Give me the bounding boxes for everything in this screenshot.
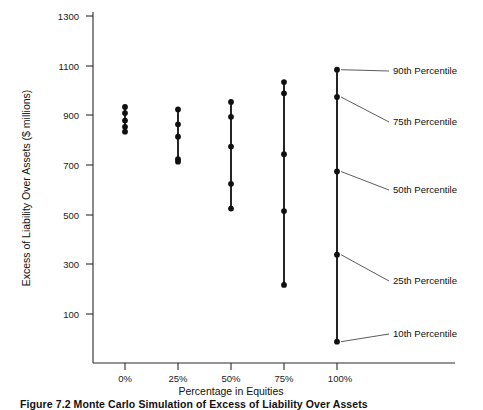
annotation-p25: 25th Percentile [393,275,457,286]
data-point-p75 [175,121,181,127]
data-point-p90 [228,99,234,105]
y-tick-label: 1300 [58,11,79,22]
y-axis-title: Excess of Liability Over Assets ($ milli… [20,90,32,287]
x-tick-label: 100% [328,373,353,384]
data-point-p50 [281,151,287,157]
annotation-p10: 10th Percentile [393,328,457,339]
y-tick-label: 100 [63,309,79,320]
annotation-p90: 90th Percentile [393,65,457,76]
data-point-p90 [334,67,340,73]
annotation-p75: 75th Percentile [393,116,457,127]
y-tick-label: 300 [63,259,79,270]
data-point-p25 [228,181,234,187]
data-point-p10 [122,129,128,135]
data-column-50pct [228,99,234,212]
data-point-p75 [228,114,234,120]
data-point-p25 [281,208,287,214]
leader-line-p75 [341,97,389,122]
y-tick-label: 700 [63,160,79,171]
data-point-p90 [175,107,181,113]
leader-line-p90 [341,70,389,71]
leader-line-p25 [341,255,389,281]
y-tick-label: 900 [63,110,79,121]
data-column-75pct [281,79,287,288]
annotation-leader-lines [341,70,389,342]
data-point-p50 [334,169,340,175]
x-tick-label: 25% [168,373,188,384]
x-tick-label: 75% [274,373,294,384]
x-axis-ticks [125,363,337,370]
data-point-p90 [281,79,287,85]
leader-line-p10 [341,334,389,342]
x-axis-title: Percentage in Equities [178,385,283,397]
data-point-p50 [175,134,181,140]
data-point-p10 [175,159,181,165]
data-point-p75 [281,90,287,96]
data-point-p90 [122,104,128,110]
data-point-p10 [228,206,234,212]
x-axis-tick-labels: 0% 25% 50% 75% 100% [118,373,353,384]
y-tick-label: 1100 [59,61,79,72]
y-axis-tick-labels: 1300 1100 900 700 500 300 100 [58,11,79,320]
data-point-p50 [228,144,234,150]
figure-caption: Figure 7.2 Monte Carlo Simulation of Exc… [20,398,368,410]
data-column-25pct [175,107,181,165]
x-tick-label: 50% [221,373,241,384]
data-point-p75 [334,94,340,100]
y-tick-label: 500 [63,210,79,221]
x-tick-label: 0% [118,373,132,384]
annotation-labels: 90th Percentile 75th Percentile 50th Per… [393,65,457,339]
data-column-0pct [122,104,128,135]
data-point-p10 [281,282,287,288]
y-axis-ticks [86,16,93,314]
data-column-100pct [334,67,340,345]
data-point-p25 [334,252,340,258]
annotation-p50: 50th Percentile [393,184,457,195]
data-point-p75 [122,110,128,116]
data-point-p10 [334,339,340,345]
data-point-p50 [122,118,128,124]
leader-line-p50 [341,172,389,191]
